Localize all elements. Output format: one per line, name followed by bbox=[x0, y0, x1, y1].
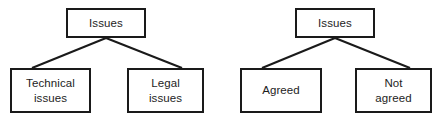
node-label: Legal issues bbox=[149, 76, 182, 106]
edge-issues-to-legal bbox=[106, 38, 182, 68]
node-technical-issues: Technical issues bbox=[10, 68, 91, 113]
node-issues-root-right: Issues bbox=[295, 8, 375, 38]
diagram-canvas: Issues Technical issues Legal issues Iss… bbox=[0, 0, 437, 122]
node-issues-root-left: Issues bbox=[66, 8, 146, 38]
node-not-agreed: Not agreed bbox=[355, 68, 432, 113]
node-agreed: Agreed bbox=[240, 68, 322, 113]
node-label: Agreed bbox=[262, 83, 300, 98]
node-label: Not agreed bbox=[375, 76, 411, 106]
edge-issues-to-not-agreed bbox=[335, 38, 410, 68]
node-legal-issues: Legal issues bbox=[127, 68, 204, 113]
edge-issues-to-technical bbox=[32, 38, 106, 68]
node-label: Issues bbox=[89, 16, 123, 31]
node-label: Technical issues bbox=[26, 76, 75, 106]
edge-issues-to-agreed bbox=[262, 38, 335, 68]
node-label: Issues bbox=[318, 16, 352, 31]
